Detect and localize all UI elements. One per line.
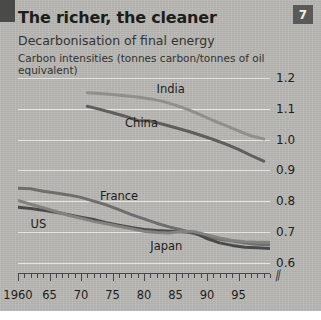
x-axis-tick-label: 70 (74, 288, 89, 302)
x-axis-minor-tick (94, 274, 95, 278)
x-axis-minor-tick (150, 274, 151, 278)
x-axis-minor-tick (119, 274, 120, 278)
x-axis-major-tick (50, 274, 51, 281)
line-series-japan (18, 201, 270, 243)
x-axis-minor-tick (138, 274, 139, 278)
line-series-china (87, 106, 263, 161)
x-axis-minor-tick (257, 274, 258, 278)
x-axis-minor-tick (226, 274, 227, 278)
x-axis-minor-tick (220, 274, 221, 278)
x-axis-minor-tick (163, 274, 164, 278)
x-axis-minor-tick (37, 274, 38, 278)
y-axis-tick-label: 1.1 (276, 102, 295, 116)
x-axis-minor-tick (75, 274, 76, 278)
axis-break-icon: ⁄⁄ (274, 268, 283, 284)
plot-area (18, 78, 270, 278)
chart-number-badge: 7 (293, 5, 313, 24)
x-axis-minor-tick (169, 274, 170, 278)
x-axis-minor-tick (68, 274, 69, 278)
series-lines (18, 78, 270, 278)
y-axis-tick-label: 1.0 (276, 133, 295, 147)
x-axis-tick-label: 95 (231, 288, 246, 302)
corner-mark (0, 0, 15, 22)
series-label-france: France (100, 189, 138, 203)
x-axis-minor-tick (188, 274, 189, 278)
x-axis-minor-tick (157, 274, 158, 278)
x-axis-tick-label: 90 (200, 288, 215, 302)
x-axis-minor-tick (270, 274, 271, 278)
x-axis-minor-tick (100, 274, 101, 278)
x-axis-tick-label: 65 (42, 288, 57, 302)
page-title: The richer, the cleaner (18, 8, 217, 27)
x-axis-major-tick (113, 274, 114, 281)
x-axis-minor-tick (201, 274, 202, 278)
x-axis-minor-tick (125, 274, 126, 278)
x-axis-major-tick (176, 274, 177, 281)
y-axis-tick-label: 0.6 (276, 256, 295, 270)
chart-subtitle: Decarbonisation of final energy (18, 33, 215, 48)
x-axis-minor-tick (182, 274, 183, 278)
x-axis-minor-tick (87, 274, 88, 278)
x-axis-minor-tick (24, 274, 25, 278)
x-axis-minor-tick (194, 274, 195, 278)
x-axis-minor-tick (245, 274, 246, 278)
x-axis-minor-tick (264, 274, 265, 278)
y-axis-tick-label: 0.8 (276, 194, 295, 208)
x-axis-major-tick (144, 274, 145, 281)
y-axis-tick-label: 0.7 (276, 225, 295, 239)
x-axis-minor-tick (43, 274, 44, 278)
x-axis-minor-tick (106, 274, 107, 278)
x-axis-major-tick (207, 274, 208, 281)
x-axis-major-tick (18, 274, 19, 281)
x-axis-tick-label: 1960 (3, 288, 32, 302)
x-axis-minor-tick (251, 274, 252, 278)
series-label-japan: Japan (150, 239, 182, 253)
x-axis-minor-tick (131, 274, 132, 278)
x-axis-minor-tick (232, 274, 233, 278)
line-series-india (87, 93, 263, 139)
y-axis-tick-label: 0.9 (276, 163, 295, 177)
x-axis-major-tick (239, 274, 240, 281)
x-axis-minor-tick (31, 274, 32, 278)
x-axis-minor-tick (213, 274, 214, 278)
x-axis-minor-tick (56, 274, 57, 278)
series-label-india: India (157, 82, 185, 96)
x-axis-tick-label: 85 (168, 288, 183, 302)
x-axis-tick-label: 75 (105, 288, 120, 302)
y-axis-tick-label: 1.2 (276, 71, 295, 85)
x-axis-minor-tick (62, 274, 63, 278)
x-axis-tick-label: 80 (137, 288, 152, 302)
x-axis-major-tick (81, 274, 82, 281)
series-label-us: US (31, 217, 47, 231)
chart-panel: 7 The richer, the cleaner Decarbonisatio… (0, 0, 321, 311)
line-series-france (18, 188, 270, 245)
series-label-china: China (125, 116, 158, 130)
